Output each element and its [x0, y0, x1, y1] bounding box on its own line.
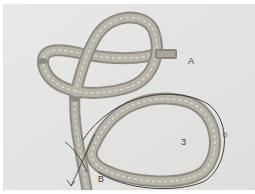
label-3: 3: [181, 137, 186, 147]
label-b: B: [98, 174, 104, 184]
label-a: A: [188, 56, 194, 66]
rope-illustration: [3, 4, 255, 190]
knot-photo: A B 3: [3, 4, 255, 190]
